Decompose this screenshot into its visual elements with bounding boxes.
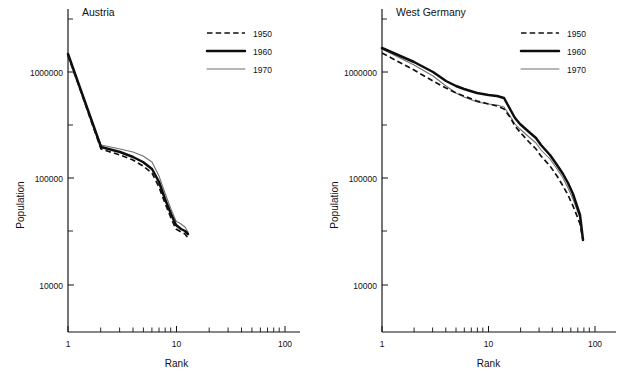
wg-ytick-10000: 10000 — [353, 281, 377, 291]
wg-series-1970 — [382, 49, 583, 240]
wg-series-1950 — [382, 53, 583, 240]
wg-yaxis-label: Population — [329, 181, 340, 228]
austria-panel-title: Austria — [82, 6, 115, 18]
wg-panel-title: West Germany — [396, 6, 467, 18]
austria-xtick-10: 10 — [172, 339, 182, 349]
wg-legend-label-1970: 1970 — [567, 65, 586, 75]
wg-xaxis-label: Rank — [477, 358, 501, 369]
austria-xtick-100: 100 — [278, 339, 292, 349]
austria-legend-label-1950: 1950 — [253, 29, 272, 39]
chart-panel-west-germany: West Germany 1000000 100000 10000 1 10 1… — [311, 0, 621, 378]
chart-panel-austria: Austria 1000000 100000 10000 1 10 100 Ra… — [0, 0, 311, 378]
wg-ytick-1000000: 1000000 — [344, 68, 377, 78]
austria-legend-label-1970: 1970 — [253, 65, 272, 75]
austria-ytick-10000: 10000 — [39, 281, 63, 291]
wg-ytick-100000: 100000 — [349, 174, 378, 184]
austria-yaxis-label: Population — [15, 181, 26, 228]
austria-plot-svg: Austria 1000000 100000 10000 1 10 100 Ra… — [0, 0, 311, 378]
figure-root: Austria 1000000 100000 10000 1 10 100 Ra… — [0, 0, 621, 378]
austria-y-major-ticks — [68, 72, 74, 285]
wg-legend-label-1960: 1960 — [567, 47, 586, 57]
austria-ytick-1000000: 1000000 — [30, 68, 63, 78]
wg-xtick-1: 1 — [380, 339, 385, 349]
austria-xaxis-label: Rank — [165, 358, 189, 369]
austria-xtick-1: 1 — [66, 339, 71, 349]
wg-x-ticks — [382, 326, 595, 332]
west-germany-plot-svg: West Germany 1000000 100000 10000 1 10 1… — [311, 0, 621, 378]
austria-legend: 1950 1960 1970 — [207, 29, 272, 75]
wg-xtick-10: 10 — [484, 339, 494, 349]
wg-series-1960 — [382, 48, 583, 240]
austria-ytick-100000: 100000 — [35, 174, 64, 184]
austria-legend-label-1960: 1960 — [253, 47, 272, 57]
wg-legend-label-1950: 1950 — [567, 29, 586, 39]
austria-y-minor-ticks — [68, 19, 73, 231]
austria-x-ticks — [68, 326, 285, 332]
wg-y-major-ticks — [382, 72, 388, 285]
austria-series-1970 — [68, 55, 188, 232]
wg-xtick-100: 100 — [588, 339, 602, 349]
wg-legend: 1950 1960 1970 — [521, 29, 586, 75]
